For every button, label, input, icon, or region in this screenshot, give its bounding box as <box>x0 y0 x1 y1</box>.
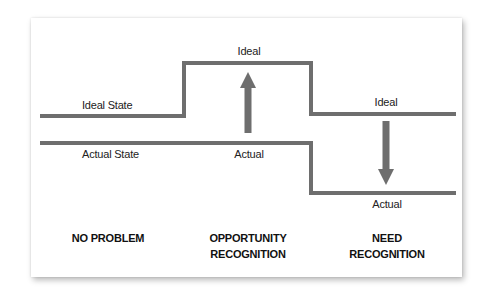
no-problem-category: NO PROBLEM <box>72 230 145 246</box>
actual-opportunity-label: Actual <box>234 148 263 160</box>
need-recognition-category: NEED RECOGNITION <box>349 230 424 262</box>
up-arrow-icon <box>240 72 256 133</box>
need-label-line2: RECOGNITION <box>349 246 424 262</box>
ideal-need-label: Ideal <box>375 96 398 108</box>
actual-need-label: Actual <box>372 198 401 210</box>
ideal-opportunity-label: Ideal <box>238 45 261 57</box>
down-arrow-icon <box>378 121 394 185</box>
opportunity-recognition-category: OPPORTUNITY RECOGNITION <box>209 230 286 262</box>
opportunity-label-line2: RECOGNITION <box>209 246 286 262</box>
ideal-state-label: Ideal State <box>82 99 132 111</box>
opportunity-label-line1: OPPORTUNITY <box>209 230 286 246</box>
no-problem-label: NO PROBLEM <box>72 232 145 244</box>
need-label-line1: NEED <box>349 230 424 246</box>
actual-state-label: Actual State <box>82 148 139 160</box>
